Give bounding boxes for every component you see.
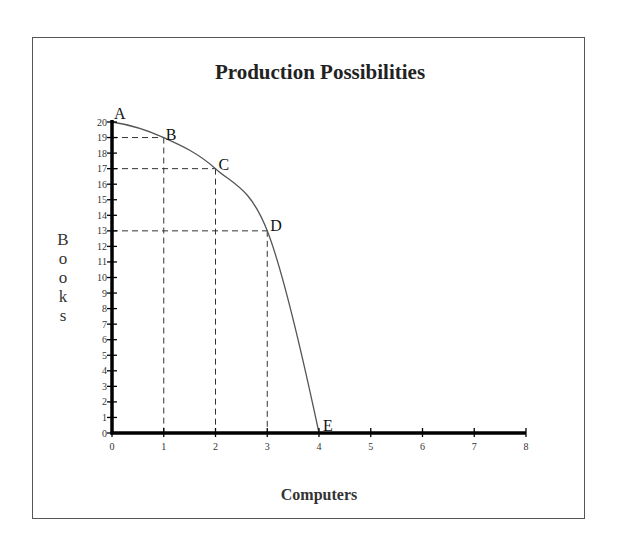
y-axis-ticks: 01234567891011121314151617181920 bbox=[97, 117, 117, 439]
x-tick-label: 4 bbox=[317, 441, 322, 452]
y-tick-label: 12 bbox=[97, 241, 107, 252]
point-label-b: B bbox=[166, 126, 177, 143]
dashed-reference-lines bbox=[112, 138, 267, 433]
y-tick-label: 0 bbox=[102, 428, 107, 439]
y-tick-label: 14 bbox=[97, 210, 107, 221]
x-tick-label: 6 bbox=[420, 441, 425, 452]
y-tick-label: 13 bbox=[97, 225, 107, 236]
y-tick-label: 7 bbox=[102, 319, 107, 330]
y-axis-title-letter: o bbox=[59, 268, 68, 287]
x-tick-label: 5 bbox=[368, 441, 373, 452]
axes bbox=[111, 120, 527, 435]
point-label-d: D bbox=[270, 217, 282, 234]
y-axis-title-letter: s bbox=[60, 306, 67, 325]
y-tick-label: 5 bbox=[102, 350, 107, 361]
point-label-c: C bbox=[219, 156, 230, 173]
ppf-chart: Production Possibilities Books Computers… bbox=[0, 0, 617, 553]
y-tick-label: 19 bbox=[97, 132, 107, 143]
y-axis-title-letter: k bbox=[59, 287, 68, 306]
y-tick-label: 16 bbox=[97, 179, 107, 190]
y-tick-label: 2 bbox=[102, 396, 107, 407]
y-tick-label: 6 bbox=[102, 334, 107, 345]
x-tick-label: 0 bbox=[110, 441, 115, 452]
point-label-a: A bbox=[114, 105, 126, 122]
y-axis-title: Books bbox=[57, 230, 68, 325]
y-tick-label: 8 bbox=[102, 303, 107, 314]
y-tick-label: 3 bbox=[102, 381, 107, 392]
y-tick-label: 18 bbox=[97, 148, 107, 159]
point-labels: ABCDE bbox=[114, 105, 333, 434]
x-tick-label: 2 bbox=[213, 441, 218, 452]
y-tick-label: 4 bbox=[102, 365, 107, 376]
y-tick-label: 15 bbox=[97, 194, 107, 205]
x-axis-title: Computers bbox=[281, 486, 357, 504]
y-tick-label: 9 bbox=[102, 288, 107, 299]
y-tick-label: 1 bbox=[102, 412, 107, 423]
y-tick-label: 20 bbox=[97, 117, 107, 128]
x-tick-label: 8 bbox=[524, 441, 529, 452]
y-axis-title-letter: o bbox=[59, 249, 68, 268]
x-tick-label: 3 bbox=[265, 441, 270, 452]
y-tick-label: 10 bbox=[97, 272, 107, 283]
y-axis-title-letter: B bbox=[57, 230, 68, 249]
x-tick-label: 7 bbox=[472, 441, 477, 452]
chart-title: Production Possibilities bbox=[215, 60, 425, 84]
x-tick-label: 1 bbox=[161, 441, 166, 452]
y-tick-label: 17 bbox=[97, 163, 107, 174]
point-label-e: E bbox=[323, 417, 333, 434]
y-tick-label: 11 bbox=[97, 256, 107, 267]
